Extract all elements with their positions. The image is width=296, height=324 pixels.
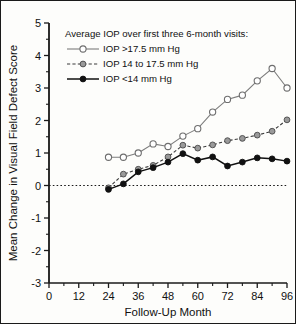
y-tick-label: 1: [35, 147, 41, 159]
chart-canvas: -3-2-1012345 01224364860728496 Follow-Up…: [1, 1, 296, 324]
data-point: [165, 143, 171, 149]
data-point: [120, 154, 126, 160]
legend-label: IOP >17.5 mm Hg: [103, 43, 180, 54]
y-tick-label: 3: [35, 82, 41, 94]
x-axis-ticks: 01224364860728496: [46, 283, 293, 302]
data-point: [180, 133, 186, 139]
x-tick-label: 60: [192, 290, 204, 302]
data-point: [195, 145, 201, 151]
x-tick-label: 72: [221, 290, 233, 302]
x-tick-label: 0: [46, 290, 52, 302]
data-point: [210, 109, 216, 115]
legend-swatch-marker: [80, 76, 86, 82]
data-point: [106, 187, 112, 193]
data-point: [210, 142, 216, 148]
y-axis-ticks: -3-2-1012345: [31, 17, 49, 289]
data-point: [225, 138, 231, 144]
data-point: [269, 128, 275, 134]
x-tick-label: 48: [162, 290, 174, 302]
data-point: [165, 159, 171, 165]
legend-title: Average IOP over first three 6-month vis…: [65, 28, 248, 39]
x-axis-title: Follow-Up Month: [125, 306, 212, 318]
y-tick-label: 5: [35, 17, 41, 29]
x-tick-label: 84: [251, 290, 263, 302]
data-point: [269, 156, 275, 162]
data-point: [120, 171, 126, 177]
legend-label: IOP <14 mm Hg: [103, 73, 172, 84]
data-point: [284, 158, 290, 164]
series-layer: [105, 65, 290, 192]
y-tick-label: -3: [31, 277, 41, 289]
legend-swatch-marker: [80, 61, 86, 67]
legend-swatch-marker: [80, 46, 86, 52]
x-tick-label: 24: [102, 290, 114, 302]
data-point: [269, 65, 275, 71]
data-point: [135, 169, 141, 175]
data-point: [239, 135, 245, 141]
x-tick-label: 36: [132, 290, 144, 302]
chart-legend: Average IOP over first three 6-month vis…: [65, 28, 248, 84]
data-point: [150, 165, 156, 171]
y-tick-label: -1: [31, 212, 41, 224]
data-point: [224, 96, 230, 102]
data-point: [180, 142, 186, 148]
data-point: [120, 181, 126, 187]
y-axis-title: Mean Change in Visual Field Defect Score: [7, 45, 19, 262]
data-point: [225, 163, 231, 169]
data-point: [150, 141, 156, 147]
data-point: [210, 154, 216, 160]
data-point: [135, 150, 141, 156]
x-tick-label: 96: [281, 290, 293, 302]
data-point: [254, 78, 260, 84]
y-tick-label: -2: [31, 245, 41, 257]
y-tick-label: 4: [35, 50, 41, 62]
data-point: [195, 157, 201, 163]
data-point: [105, 154, 111, 160]
y-tick-label: 2: [35, 115, 41, 127]
figure-panel: -3-2-1012345 01224364860728496 Follow-Up…: [0, 0, 296, 324]
data-point: [284, 85, 290, 91]
data-point: [284, 117, 290, 123]
x-tick-label: 12: [73, 290, 85, 302]
data-point: [254, 155, 260, 161]
legend-label: IOP 14 to 17.5 mm Hg: [103, 58, 198, 69]
data-point: [239, 92, 245, 98]
data-point: [254, 132, 260, 138]
y-tick-label: 0: [35, 180, 41, 192]
data-point: [239, 159, 245, 165]
data-point: [180, 151, 186, 157]
data-point: [195, 126, 201, 132]
